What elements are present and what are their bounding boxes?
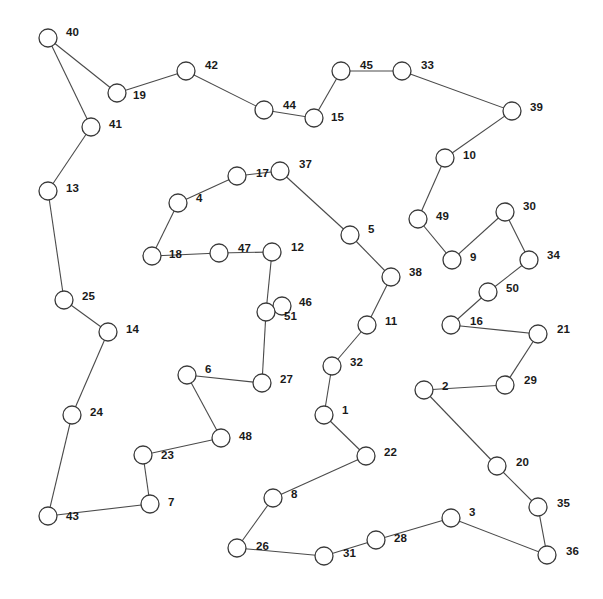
graph-node[interactable]: 8: [264, 488, 298, 507]
node-circle[interactable]: [99, 323, 117, 341]
graph-node[interactable]: 2: [415, 380, 448, 399]
node-circle[interactable]: [253, 374, 271, 392]
graph-node[interactable]: 17: [228, 167, 269, 185]
node-circle[interactable]: [358, 316, 376, 334]
graph-node[interactable]: 5: [341, 223, 375, 244]
graph-node[interactable]: 41: [82, 118, 122, 136]
node-circle[interactable]: [538, 546, 556, 564]
graph-node[interactable]: 49: [409, 210, 449, 228]
node-circle[interactable]: [255, 101, 273, 119]
graph-node[interactable]: 14: [99, 323, 139, 341]
graph-node[interactable]: 27: [253, 373, 293, 392]
node-circle[interactable]: [141, 495, 159, 513]
node-circle[interactable]: [271, 162, 289, 180]
graph-node[interactable]: 34: [520, 249, 560, 269]
node-circle[interactable]: [443, 251, 461, 269]
node-circle[interactable]: [39, 182, 57, 200]
node-circle[interactable]: [263, 243, 281, 261]
node-circle[interactable]: [210, 244, 228, 262]
node-circle[interactable]: [529, 325, 547, 343]
node-circle[interactable]: [496, 203, 514, 221]
graph-node[interactable]: 35: [529, 497, 570, 516]
graph-node[interactable]: 44: [255, 99, 296, 119]
node-circle[interactable]: [55, 291, 73, 309]
node-circle[interactable]: [442, 509, 460, 527]
node-circle[interactable]: [39, 29, 57, 47]
node-circle[interactable]: [496, 376, 514, 394]
node-circle[interactable]: [108, 84, 126, 102]
graph-node[interactable]: 6: [178, 363, 211, 384]
node-circle[interactable]: [63, 406, 81, 424]
node-circle[interactable]: [520, 251, 538, 269]
graph-node[interactable]: 26: [228, 539, 269, 557]
graph-node[interactable]: 12: [263, 241, 304, 261]
node-circle[interactable]: [341, 226, 359, 244]
graph-node[interactable]: 10: [436, 149, 476, 167]
graph-node[interactable]: 24: [63, 406, 103, 424]
graph-node[interactable]: 36: [538, 545, 579, 564]
node-circle[interactable]: [39, 507, 57, 525]
graph-node[interactable]: 20: [488, 456, 529, 475]
node-circle[interactable]: [442, 316, 460, 334]
node-circle[interactable]: [315, 406, 333, 424]
graph-node[interactable]: 38: [382, 266, 422, 286]
node-circle[interactable]: [332, 62, 350, 80]
node-circle[interactable]: [134, 446, 152, 464]
node-label: 9: [470, 251, 476, 263]
graph-node[interactable]: 32: [323, 356, 363, 375]
graph-node[interactable]: 29: [496, 374, 537, 394]
graph-node[interactable]: 22: [357, 446, 397, 465]
node-circle[interactable]: [257, 303, 275, 321]
node-circle[interactable]: [357, 447, 375, 465]
node-circle[interactable]: [212, 429, 230, 447]
node-circle[interactable]: [323, 357, 341, 375]
graph-node[interactable]: 7: [141, 495, 174, 513]
graph-node[interactable]: 23: [134, 446, 174, 464]
node-circle[interactable]: [177, 62, 195, 80]
graph-node[interactable]: 39: [503, 101, 543, 120]
graph-node[interactable]: 43: [39, 507, 79, 525]
node-circle[interactable]: [143, 247, 161, 265]
graph-node[interactable]: 50: [479, 282, 519, 301]
graph-node[interactable]: 37: [271, 158, 312, 180]
graph-node[interactable]: 4: [169, 192, 203, 212]
node-label: 16: [470, 315, 483, 327]
graph-node[interactable]: 30: [496, 200, 536, 221]
node-circle[interactable]: [264, 489, 282, 507]
node-circle[interactable]: [382, 268, 400, 286]
node-circle[interactable]: [393, 62, 411, 80]
graph-node[interactable]: 19: [108, 84, 146, 102]
node-circle[interactable]: [409, 210, 427, 228]
graph-node[interactable]: 1: [315, 404, 349, 424]
node-circle[interactable]: [178, 366, 196, 384]
node-circle[interactable]: [305, 109, 323, 127]
graph-node[interactable]: 48: [212, 429, 252, 447]
graph-node[interactable]: 47: [210, 242, 251, 262]
graph-node[interactable]: 15: [305, 109, 344, 127]
node-circle[interactable]: [228, 539, 246, 557]
graph-canvas: 4019424415453339104113371744930518471293…: [0, 0, 603, 599]
node-circle[interactable]: [479, 283, 497, 301]
node-circle[interactable]: [503, 102, 521, 120]
graph-node[interactable]: 31: [315, 547, 356, 565]
node-circle[interactable]: [169, 194, 187, 212]
node-circle[interactable]: [488, 457, 506, 475]
node-circle[interactable]: [436, 149, 454, 167]
graph-node[interactable]: 40: [39, 26, 79, 47]
node-circle[interactable]: [228, 167, 246, 185]
graph-node[interactable]: 16: [442, 315, 483, 334]
graph-node[interactable]: 11: [358, 315, 398, 334]
graph-node[interactable]: 33: [393, 59, 434, 80]
graph-node[interactable]: 28: [367, 531, 407, 549]
node-circle[interactable]: [529, 498, 547, 516]
node-circle[interactable]: [315, 547, 333, 565]
graph-node[interactable]: 3: [442, 506, 475, 527]
graph-node[interactable]: 21: [529, 323, 570, 343]
node-circle[interactable]: [367, 531, 385, 549]
graph-edge: [273, 456, 366, 498]
node-circle[interactable]: [82, 118, 100, 136]
node-circle[interactable]: [415, 381, 433, 399]
graph-node[interactable]: 13: [39, 182, 79, 200]
graph-node[interactable]: 45: [332, 59, 373, 80]
graph-node[interactable]: 25: [55, 290, 95, 309]
